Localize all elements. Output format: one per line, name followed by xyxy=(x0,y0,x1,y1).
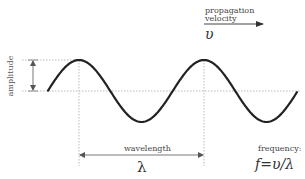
frequency-formula: f=υ/λ xyxy=(255,157,294,171)
propagation-label-line2: velocity xyxy=(205,15,236,23)
wavelength-label: wavelength xyxy=(124,145,171,153)
amplitude-label: amplitude xyxy=(6,56,15,97)
frequency-label: frequency: xyxy=(258,145,301,153)
velocity-symbol: υ xyxy=(205,27,214,41)
wavelength-symbol: λ xyxy=(137,160,147,175)
